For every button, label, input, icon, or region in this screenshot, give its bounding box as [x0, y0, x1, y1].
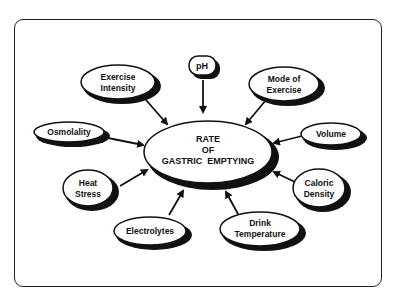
node-mode-of-exercise: Mode of Exercise [249, 67, 325, 106]
gastric-emptying-diagram: RATE OF GASTRIC EMPTYING Exercise Intens… [0, 0, 395, 305]
center-node-rate-of-gastric-emptying: RATE OF GASTRIC EMPTYING [144, 121, 279, 190]
svg-text:pH: pH [196, 61, 208, 71]
node-heat-stress: Heat Stress [63, 170, 119, 211]
svg-text:Exercise: Exercise [267, 85, 302, 95]
svg-text:Intensity: Intensity [101, 83, 136, 93]
svg-text:Osmolality: Osmolality [47, 127, 91, 137]
svg-text:GASTRIC EMPTYING: GASTRIC EMPTYING [162, 156, 255, 166]
svg-text:Electrolytes: Electrolytes [126, 226, 174, 236]
node-exercise-intensity: Exercise Intensity [81, 65, 161, 104]
svg-text:Volume: Volume [316, 129, 346, 139]
svg-text:Exercise: Exercise [101, 72, 136, 82]
node-caloric-density: Caloric Density [293, 169, 351, 212]
svg-text:RATE: RATE [196, 134, 220, 144]
svg-text:Caloric: Caloric [305, 178, 334, 188]
node-electrolytes: Electrolytes [114, 217, 192, 250]
svg-text:OF: OF [202, 145, 215, 155]
svg-text:Mode of: Mode of [268, 74, 301, 84]
node-osmolality: Osmolality [34, 122, 110, 147]
svg-text:Drink: Drink [249, 218, 271, 228]
svg-text:Temperature: Temperature [235, 229, 286, 239]
node-volume: Volume [301, 123, 367, 150]
svg-text:Density: Density [304, 189, 335, 199]
svg-text:Heat: Heat [79, 178, 98, 188]
node-drink-temperature: Drink Temperature [220, 212, 306, 251]
node-ph: pH [189, 56, 220, 79]
svg-text:Stress: Stress [75, 189, 101, 199]
